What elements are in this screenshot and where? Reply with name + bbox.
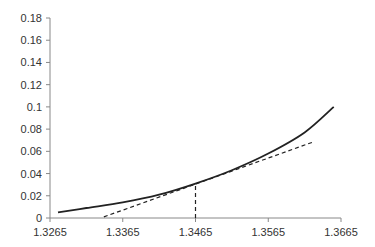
y-tick-label: 0.12	[21, 79, 42, 91]
y-tick-label: 0	[36, 212, 42, 224]
x-tick-label: 1.3265	[33, 226, 67, 238]
x-tick-label: 1.3365	[106, 226, 140, 238]
y-tick-label: 0.06	[21, 145, 42, 157]
y-tick-label: 0.1	[27, 101, 42, 113]
axes: 00.020.040.060.080.10.120.140.160.181.32…	[21, 12, 358, 238]
plot-series	[58, 107, 334, 218]
y-tick-label: 0.16	[21, 34, 42, 46]
y-tick-label: 0.08	[21, 123, 42, 135]
x-tick-label: 1.3665	[324, 226, 358, 238]
y-tick-label: 0.02	[21, 190, 42, 202]
y-tick-label: 0.18	[21, 12, 42, 24]
chart: 00.020.040.060.080.10.120.140.160.181.32…	[0, 0, 375, 247]
x-tick-label: 1.3565	[251, 226, 285, 238]
x-tick-label: 1.3465	[179, 226, 213, 238]
y-tick-label: 0.04	[21, 168, 42, 180]
y-tick-label: 0.14	[21, 56, 42, 68]
